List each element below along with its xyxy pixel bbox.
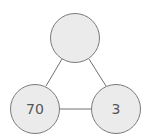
- node-bottom-right: 3: [92, 85, 141, 134]
- node-bottom-right-label: 3: [112, 101, 121, 117]
- node-bottom-left: 70: [11, 85, 60, 134]
- triangle-graph-diagram: 70 3: [0, 0, 147, 139]
- edge-top-bottom-right: [89, 59, 106, 86]
- edge-top-bottom-left: [46, 59, 62, 86]
- node-bottom-left-label: 70: [26, 101, 44, 117]
- node-top: [51, 14, 100, 63]
